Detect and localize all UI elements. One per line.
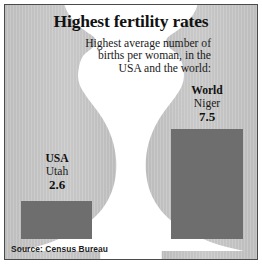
bar-value-label-world: 7.5	[165, 110, 249, 124]
subtitle-line-2: births per woman, in the	[5, 50, 211, 62]
bar-region-label-world: World	[165, 85, 249, 98]
title-block: Highest fertility rates	[5, 11, 257, 31]
subtitle-line-3: USA and the world:	[5, 63, 211, 75]
bar-usa	[21, 201, 92, 239]
bar-value-label-usa: 2.6	[17, 178, 97, 192]
infographic-frame: Highest fertility rates Highest average …	[4, 4, 258, 260]
source-note: Source: Census Bureau	[11, 244, 108, 254]
bar-world	[171, 129, 243, 239]
page-title: Highest fertility rates	[5, 11, 257, 31]
bar-region-label-usa: USA	[17, 153, 97, 166]
bar-label-group-world: World Niger 7.5	[165, 85, 249, 124]
bar-label-group-usa: USA Utah 2.6	[17, 153, 97, 192]
chart-subtitle: Highest average number of births per wom…	[5, 38, 257, 75]
fertility-rates-infographic: Highest fertility rates Highest average …	[0, 0, 262, 264]
